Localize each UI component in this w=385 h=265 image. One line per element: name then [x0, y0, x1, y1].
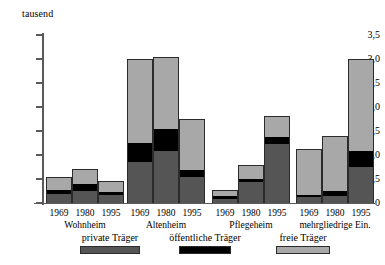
bar-segment-freie: [128, 60, 152, 143]
bar-segment-private: [239, 182, 263, 203]
bar-pflegeheim-1995: [264, 116, 290, 203]
x-tick-label-year: 1995: [179, 208, 205, 218]
x-tick-label-year: 1969: [296, 208, 322, 218]
bar-segment-private: [213, 199, 237, 203]
bar-wohnheim-1969: [46, 177, 72, 203]
bar-segment-oeffentlich: [265, 137, 289, 144]
bar-segment-oeffentlich: [154, 129, 178, 150]
bar-segment-freie: [154, 58, 178, 130]
x-tick-label-year: 1969: [46, 208, 72, 218]
bar-segment-freie: [239, 166, 263, 179]
chart-legend: private Trägeröffentliche Trägerfreie Tr…: [0, 232, 380, 258]
bar-segment-private: [349, 167, 373, 203]
bar-segment-private: [154, 151, 178, 203]
bar-altenheim-1995: [179, 119, 205, 203]
bar-segment-freie: [323, 137, 347, 191]
bar-segment-freie: [47, 178, 71, 190]
bar-segment-private: [323, 196, 347, 203]
bar-segment-freie: [297, 150, 321, 195]
bar-pflegeheim-1980: [238, 165, 264, 203]
bar-segment-freie: [265, 117, 289, 137]
x-tick-label-year: 1969: [212, 208, 238, 218]
bar-segment-freie: [99, 182, 123, 191]
legend-swatch: [276, 246, 330, 254]
legend-item-1: öffentliche Träger: [150, 232, 260, 254]
bar-segment-freie: [73, 170, 97, 184]
legend-label: private Träger: [60, 232, 160, 243]
bar-segment-private: [99, 195, 123, 203]
bar-pflegeheim-1969: [212, 190, 238, 203]
bar-wohnheim-1980: [72, 169, 98, 203]
bar-segment-private: [297, 197, 321, 203]
y-tick-mark: [36, 202, 43, 204]
bar-altenheim-1980: [153, 57, 179, 203]
y-tick-mark: [36, 58, 43, 60]
y-axis-unit-label: tausend: [22, 8, 53, 19]
bar-altenheim-1969: [127, 59, 153, 203]
bar-mehrgliedrige-ein--1980: [322, 136, 348, 203]
bar-segment-oeffentlich: [349, 151, 373, 168]
y-tick-mark: [36, 178, 43, 180]
legend-label: öffentliche Träger: [150, 232, 260, 243]
bar-segment-private: [47, 194, 71, 203]
y-tick-mark: [36, 130, 43, 132]
x-axis-group-label: mehrgliedrige Ein.: [282, 220, 385, 230]
x-tick-label-year: 1980: [153, 208, 179, 218]
bar-segment-private: [73, 191, 97, 203]
x-tick-label-year: 1995: [348, 208, 374, 218]
x-tick-label-year: 1995: [98, 208, 124, 218]
bar-segment-freie: [349, 60, 373, 151]
y-tick-mark: [36, 106, 43, 108]
x-tick-label-year: 1995: [264, 208, 290, 218]
legend-swatch: [80, 246, 140, 254]
x-tick-label-year: 1980: [72, 208, 98, 218]
x-tick-label-year: 1980: [322, 208, 348, 218]
legend-item-2: freie Träger: [258, 232, 348, 254]
bar-segment-freie: [180, 120, 204, 170]
bar-segment-private: [180, 177, 204, 203]
y-tick-mark: [36, 154, 43, 156]
bar-segment-oeffentlich: [180, 170, 204, 177]
legend-item-0: private Träger: [60, 232, 160, 254]
bar-mehrgliedrige-ein--1969: [296, 149, 322, 203]
y-tick-mark: [36, 34, 43, 36]
bar-wohnheim-1995: [98, 181, 124, 203]
legend-label: freie Träger: [258, 232, 348, 243]
x-tick-label-year: 1980: [238, 208, 264, 218]
bar-segment-private: [128, 162, 152, 203]
legend-swatch: [179, 246, 231, 254]
y-tick-mark: [36, 82, 43, 84]
bar-segment-oeffentlich: [128, 143, 152, 162]
bar-segment-private: [265, 144, 289, 203]
bar-segment-oeffentlich: [73, 184, 97, 191]
bar-mehrgliedrige-ein--1995: [348, 59, 374, 203]
x-tick-label-year: 1969: [127, 208, 153, 218]
plot-area: [43, 35, 373, 203]
